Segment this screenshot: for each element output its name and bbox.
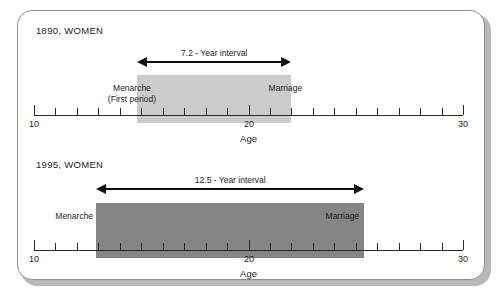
- axis-tick: [120, 243, 121, 250]
- axis-tick: [313, 243, 314, 250]
- axis-tick: [227, 243, 228, 250]
- axis-tick: [442, 108, 443, 115]
- axis-tick: [141, 108, 142, 115]
- axis-tick: [206, 243, 207, 250]
- axis-tick: [227, 108, 228, 115]
- axis-tick: [270, 108, 271, 115]
- axis-tick-label: 20: [244, 119, 254, 129]
- age-axis-1890: [34, 115, 463, 116]
- axis-tick: [291, 108, 292, 115]
- axis-tick-label: 20: [244, 254, 254, 264]
- axis-tick: [34, 240, 35, 250]
- axis-tick: [249, 105, 250, 115]
- axis-tick: [291, 243, 292, 250]
- age-axis-1995: [34, 250, 463, 251]
- interval-arrow-head-right-1890: [281, 57, 291, 67]
- interval-arrow-head-left-1890: [137, 57, 147, 67]
- axis-tick: [334, 108, 335, 115]
- axis-tick: [55, 108, 56, 115]
- axis-tick: [313, 108, 314, 115]
- figure-frame: 1890, WOMEN 7.2 - Year interval Menarche…: [17, 10, 485, 280]
- axis-tick: [420, 243, 421, 250]
- panel-title-1890: 1890, WOMEN: [36, 25, 103, 36]
- marriage-label-1995: Marriage: [326, 211, 360, 222]
- axis-tick: [463, 240, 464, 250]
- interval-arrow-head-left-1995: [96, 184, 106, 194]
- axis-tick: [356, 243, 357, 250]
- axis-tick: [356, 108, 357, 115]
- axis-tick: [270, 243, 271, 250]
- axis-tick: [163, 243, 164, 250]
- axis-tick: [55, 243, 56, 250]
- axis-tick: [399, 108, 400, 115]
- axis-tick: [377, 108, 378, 115]
- axis-tick: [184, 108, 185, 115]
- axis-tick: [98, 108, 99, 115]
- axis-tick: [77, 108, 78, 115]
- axis-tick: [249, 240, 250, 250]
- axis-tick-label: 30: [458, 254, 468, 264]
- axis-tick: [77, 243, 78, 250]
- interval-arrow-line-1995: [105, 188, 355, 190]
- interval-label-1890: 7.2 - Year interval: [178, 48, 250, 58]
- axis-tick: [98, 243, 99, 250]
- figure-container: 1890, WOMEN 7.2 - Year interval Menarche…: [0, 0, 502, 297]
- panel-title-1995: 1995, WOMEN: [36, 159, 103, 170]
- interval-arrow-line-1890: [146, 61, 282, 63]
- axis-tick: [420, 108, 421, 115]
- menarche-label-line2: (First period): [108, 94, 156, 105]
- axis-tick: [399, 243, 400, 250]
- axis-tick: [442, 243, 443, 250]
- menarche-label-line1: Menarche: [108, 83, 156, 94]
- panel-1890: 1890, WOMEN 7.2 - Year interval Menarche…: [18, 13, 486, 148]
- axis-title-1890: Age: [240, 133, 257, 144]
- panel-1995: 1995, WOMEN 12.5 - Year interval Menarch…: [18, 147, 486, 282]
- axis-tick: [463, 105, 464, 115]
- axis-tick: [184, 243, 185, 250]
- axis-tick: [163, 108, 164, 115]
- axis-tick: [141, 243, 142, 250]
- interval-arrow-head-right-1995: [354, 184, 364, 194]
- axis-tick: [334, 243, 335, 250]
- axis-tick: [206, 108, 207, 115]
- axis-tick: [377, 243, 378, 250]
- axis-tick-label: 30: [458, 119, 468, 129]
- axis-tick-label: 10: [29, 119, 39, 129]
- axis-tick-label: 10: [29, 254, 39, 264]
- axis-title-1995: Age: [240, 268, 257, 279]
- menarche-label-1890: Menarche (First period): [108, 83, 156, 105]
- axis-tick: [120, 108, 121, 115]
- interval-label-1995: 12.5 - Year interval: [192, 175, 269, 185]
- axis-tick: [34, 105, 35, 115]
- menarche-label-1995: Menarche: [55, 211, 93, 222]
- menarche-label-line1: Menarche: [55, 211, 93, 222]
- marriage-label-1890: Marriage: [269, 83, 303, 94]
